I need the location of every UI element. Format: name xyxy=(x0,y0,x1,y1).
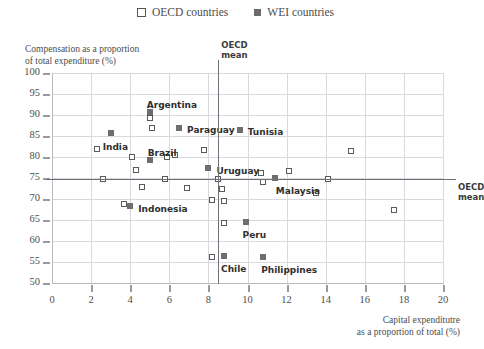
y-tick-mark xyxy=(43,73,50,75)
data-point-label: Peru xyxy=(243,230,267,240)
x-tick-label: 4 xyxy=(118,294,142,305)
oecd-mean-horizontal-label: OECD mean xyxy=(458,182,484,202)
data-point-wei xyxy=(108,130,114,136)
data-point-label: Uruguay xyxy=(216,166,259,176)
x-tick-label: 8 xyxy=(196,294,220,305)
legend-item-oecd: OECD countries xyxy=(137,6,228,18)
x-tick-label: 2 xyxy=(79,294,103,305)
data-point-oecd xyxy=(221,220,227,226)
gridline-vertical xyxy=(365,73,366,283)
y-tick-label: 70 xyxy=(14,192,40,203)
y-axis-title: Compensation as a proportion of total ex… xyxy=(25,44,185,67)
oecd-mean-v-line1: OECD xyxy=(221,40,247,50)
x-tick-mark xyxy=(91,285,93,292)
y-tick-label: 100 xyxy=(14,66,40,77)
x-tick-mark xyxy=(443,285,445,292)
open-square-icon xyxy=(137,8,146,17)
y-tick-label: 95 xyxy=(14,87,40,98)
y-tick-label: 85 xyxy=(14,129,40,140)
y-tick-label: 50 xyxy=(14,276,40,287)
x-tick-mark xyxy=(169,285,171,292)
data-point-label: Tunisia xyxy=(248,127,284,137)
gridline-vertical xyxy=(287,73,288,283)
oecd-mean-vertical-label: OECD mean xyxy=(221,40,247,60)
x-tick-mark xyxy=(130,285,132,292)
data-point-label: Indonesia xyxy=(138,204,187,214)
y-tick-label: 90 xyxy=(14,108,40,119)
x-tick-label: 20 xyxy=(431,294,455,305)
legend-label-oecd: OECD countries xyxy=(152,6,228,18)
x-axis-line xyxy=(52,283,444,284)
y-tick-label: 80 xyxy=(14,150,40,161)
filled-square-icon xyxy=(254,9,261,16)
x-tick-mark xyxy=(404,285,406,292)
data-point-label: Argentina xyxy=(147,100,197,110)
x-axis-title-line1: Capital expenditutre xyxy=(300,315,460,327)
legend-item-wei: WEI countries xyxy=(254,6,334,18)
data-point-label: Chile xyxy=(221,264,246,274)
data-point-oecd xyxy=(391,207,397,213)
gridline-vertical xyxy=(208,73,209,283)
data-point-oecd xyxy=(219,186,225,192)
y-tick-mark xyxy=(43,115,50,117)
y-tick-mark xyxy=(43,241,50,243)
data-point-wei xyxy=(127,203,133,209)
gridline-vertical xyxy=(404,73,405,283)
data-point-wei xyxy=(260,254,266,260)
legend-label-wei: WEI countries xyxy=(267,6,334,18)
oecd-mean-v-line2: mean xyxy=(221,50,247,60)
gridline-vertical xyxy=(91,73,92,283)
data-point-oecd xyxy=(221,198,227,204)
x-tick-label: 16 xyxy=(353,294,377,305)
data-point-oecd xyxy=(201,147,207,153)
data-point-oecd xyxy=(184,185,190,191)
y-tick-mark xyxy=(43,199,50,201)
data-point-wei xyxy=(176,125,182,131)
y-axis-title-line2: of total expenditure (%) xyxy=(25,56,185,68)
gridline-vertical xyxy=(443,73,444,283)
x-tick-mark xyxy=(248,285,250,292)
oecd-mean-h-line1: OECD xyxy=(458,182,484,192)
y-tick-label: 60 xyxy=(14,234,40,245)
y-tick-mark xyxy=(43,157,50,159)
data-point-oecd xyxy=(133,167,139,173)
x-tick-mark xyxy=(287,285,289,292)
x-tick-mark xyxy=(208,285,210,292)
y-tick-label: 65 xyxy=(14,213,40,224)
data-point-oecd xyxy=(94,146,100,152)
data-point-oecd xyxy=(149,125,155,131)
data-point-wei xyxy=(205,165,211,171)
data-point-oecd xyxy=(258,170,264,176)
oecd-mean-horizontal-line xyxy=(46,179,456,180)
data-point-label: Malaysia xyxy=(276,186,320,196)
y-tick-mark xyxy=(43,136,50,138)
data-point-oecd xyxy=(209,197,215,203)
x-tick-label: 10 xyxy=(236,294,260,305)
data-point-oecd xyxy=(129,154,135,160)
x-tick-mark xyxy=(365,285,367,292)
data-point-oecd xyxy=(286,168,292,174)
x-axis-title-line2: as a proportion of total (%) xyxy=(300,327,460,339)
x-tick-label: 12 xyxy=(275,294,299,305)
y-tick-mark xyxy=(43,262,50,264)
data-point-oecd xyxy=(147,115,153,121)
data-point-label: Paraguay xyxy=(187,125,234,135)
data-point-wei xyxy=(243,219,249,225)
y-tick-mark xyxy=(43,220,50,222)
x-axis-title: Capital expenditutre as a proportion of … xyxy=(300,315,460,338)
x-tick-label: 14 xyxy=(314,294,338,305)
data-point-label: Philippines xyxy=(261,265,317,275)
data-point-oecd xyxy=(209,254,215,260)
chart-legend: OECD countries WEI countries xyxy=(0,6,471,18)
data-point-oecd xyxy=(348,148,354,154)
x-tick-mark xyxy=(326,285,328,292)
oecd-mean-vertical-line xyxy=(218,60,219,284)
y-tick-label: 55 xyxy=(14,255,40,266)
oecd-mean-h-line2: mean xyxy=(458,192,484,202)
x-tick-label: 18 xyxy=(392,294,416,305)
x-tick-label: 6 xyxy=(157,294,181,305)
gridline-vertical xyxy=(248,73,249,283)
y-tick-label: 75 xyxy=(14,171,40,182)
gridline-vertical xyxy=(130,73,131,283)
